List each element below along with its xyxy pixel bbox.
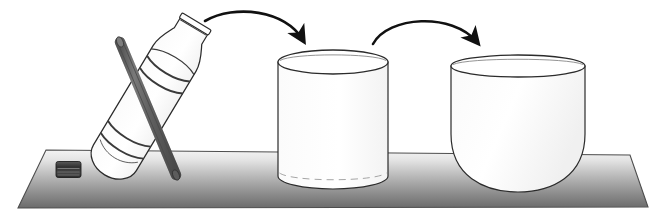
arrow-1-path [205, 12, 303, 40]
bottle-cap [56, 162, 81, 178]
bowl-body [451, 66, 585, 192]
arrow-2 [373, 21, 477, 44]
arrow-1 [205, 12, 303, 40]
cylinder-rim [278, 50, 388, 74]
cylinder-cup [278, 50, 388, 189]
cylinder-body [278, 62, 388, 189]
illustration-canvas [0, 0, 664, 219]
arrow-2-path [373, 21, 477, 44]
pouring-illustration [0, 0, 664, 219]
bowl-rim [451, 55, 585, 77]
bowl-cup [451, 55, 585, 192]
